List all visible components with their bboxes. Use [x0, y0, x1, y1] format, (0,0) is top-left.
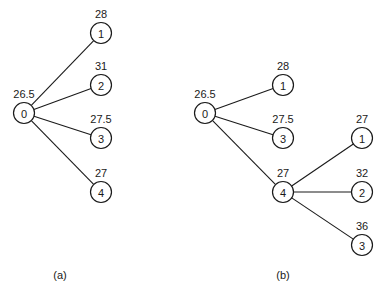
node-id-label: 4: [280, 187, 286, 199]
node-id-label: 3: [359, 240, 365, 252]
node-id-label: 3: [98, 133, 104, 145]
edge-b4-b43: [292, 198, 354, 239]
tree-node: 327.5: [90, 113, 111, 149]
tree-node: 336: [352, 220, 373, 256]
edge-b4-b41: [292, 144, 354, 186]
node-id-label: 2: [98, 80, 104, 92]
node-id-label: 1: [280, 80, 286, 92]
node-value-label: 32: [356, 167, 368, 179]
node-value-label: 27.5: [272, 113, 293, 125]
tree-node: 327.5: [272, 113, 293, 149]
diagram-b: 026.5128327.5427127232336(b): [194, 60, 372, 282]
edge-a0-a1: [31, 41, 93, 106]
edge-a0-a4: [31, 121, 93, 185]
tree-node: 427: [273, 167, 294, 203]
node-value-label: 26.5: [194, 88, 215, 100]
node-id-label: 3: [280, 133, 286, 145]
tree-node: 026.5: [194, 88, 215, 124]
diagram-a: 026.5128231327.5427(a): [13, 8, 111, 282]
node-value-label: 28: [95, 8, 107, 20]
node-value-label: 27: [356, 113, 368, 125]
tree-node: 026.5: [13, 88, 34, 124]
node-value-label: 27: [95, 167, 107, 179]
tree-node: 127: [352, 113, 373, 149]
tree-node: 231: [91, 60, 112, 96]
tree-node: 232: [352, 167, 373, 203]
edge-b0-b1: [215, 89, 273, 110]
node-value-label: 26.5: [13, 88, 34, 100]
edge-b0-b4: [212, 120, 275, 184]
node-id-label: 4: [98, 187, 104, 199]
node-value-label: 31: [95, 60, 107, 72]
node-value-label: 28: [277, 60, 289, 72]
node-id-label: 0: [202, 108, 208, 120]
tree-diagram-canvas: 026.5128231327.5427(a) 026.5128327.54271…: [0, 0, 386, 292]
node-id-label: 0: [21, 108, 27, 120]
node-value-label: 36: [356, 220, 368, 232]
edge-a0-a2: [34, 89, 91, 110]
node-value-label: 27.5: [90, 113, 111, 125]
node-id-label: 1: [359, 133, 365, 145]
node-value-label: 27: [277, 167, 289, 179]
diagram-caption: (a): [53, 269, 66, 281]
tree-node: 427: [91, 167, 112, 203]
tree-node: 128: [273, 60, 294, 96]
node-id-label: 2: [359, 187, 365, 199]
node-id-label: 1: [98, 28, 104, 40]
diagram-caption: (b): [276, 269, 289, 281]
tree-node: 128: [91, 8, 112, 44]
